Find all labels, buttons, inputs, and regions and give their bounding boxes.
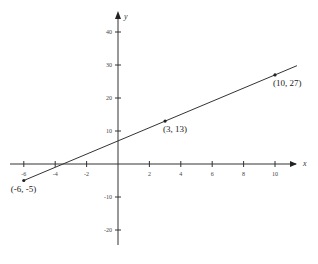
point-label: (10, 27) <box>273 78 302 88</box>
point-label: (-6, -5) <box>11 184 37 194</box>
x-tick-label: -6 <box>21 171 26 177</box>
x-tick-label: 8 <box>242 171 245 177</box>
x-tick-label: 2 <box>148 171 151 177</box>
x-tick-label: -2 <box>84 171 89 177</box>
y-tick-label: 30 <box>106 62 112 68</box>
line-chart: x -6-4-2246810 y -20-1010203040 (-6, -5)… <box>0 0 318 264</box>
y-tick-label: 40 <box>106 29 112 35</box>
x-axis-label: x <box>302 159 307 168</box>
x-axis-arrow-icon <box>290 161 297 167</box>
y-axis-label: y <box>123 12 128 21</box>
x-tick-label: -4 <box>53 171 58 177</box>
y-axis-arrow-icon <box>115 11 121 19</box>
x-tick-label: 10 <box>272 171 278 177</box>
data-point <box>273 73 276 76</box>
x-tick-label: 4 <box>179 171 182 177</box>
x-tick-label: 6 <box>211 171 214 177</box>
data-point <box>164 120 167 123</box>
point-label: (3, 13) <box>163 124 187 134</box>
data-point <box>22 179 25 182</box>
data-series <box>22 66 297 182</box>
y-tick-label: -20 <box>104 227 112 233</box>
x-ticks: -6-4-2246810 <box>21 161 278 177</box>
y-tick-label: 20 <box>106 95 112 101</box>
y-axis: y -20-1010203040 <box>104 11 128 245</box>
data-line <box>24 66 297 181</box>
y-tick-label: 10 <box>106 128 112 134</box>
y-tick-label: -10 <box>104 194 112 200</box>
